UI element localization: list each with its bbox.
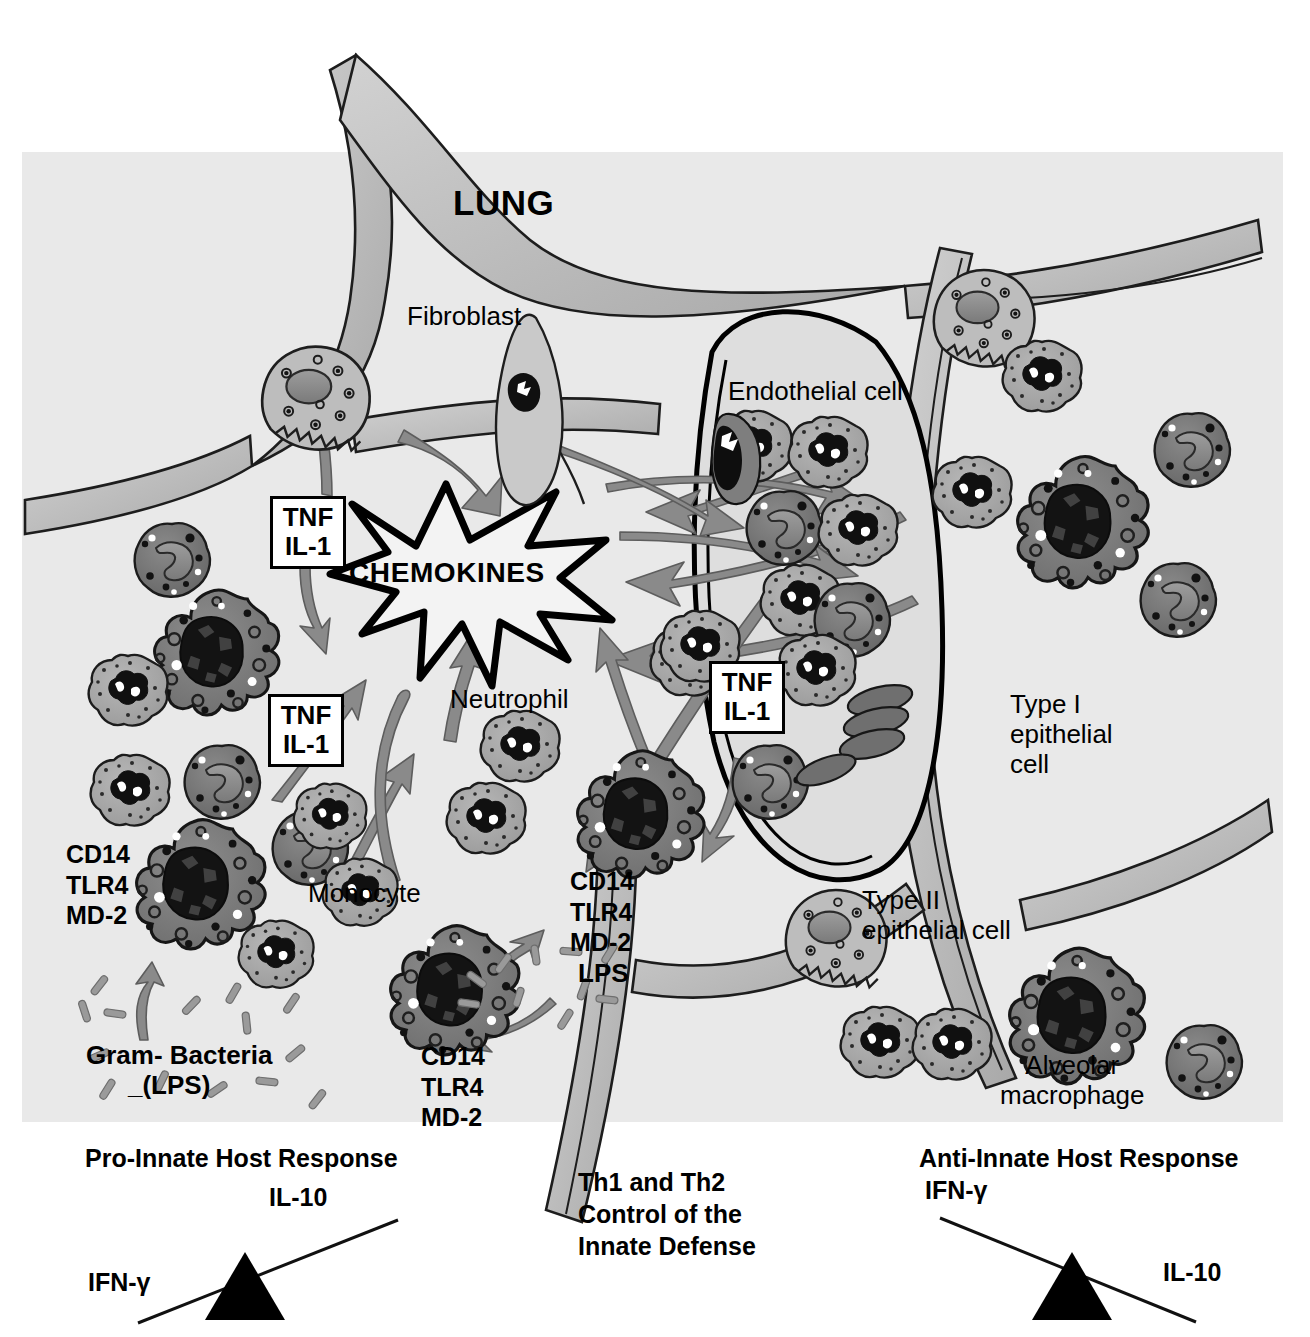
footer-right-low-label: IL-10 bbox=[1163, 1258, 1221, 1287]
footer-right-heading: Anti-Innate Host Response bbox=[919, 1144, 1238, 1173]
label-chemokines: CHEMOKINES bbox=[349, 557, 545, 589]
label-endothelial-cell: Endothelial cell bbox=[728, 376, 903, 406]
cytokine-box-fibroblast: TNF IL-1 bbox=[270, 496, 346, 569]
cytokine-il1: IL-1 bbox=[278, 730, 334, 759]
receptor-cluster-left: CD14 TLR4 MD-2 bbox=[66, 839, 130, 931]
label-gram-bacteria-lps: _(LPS) bbox=[128, 1070, 210, 1101]
receptor-cluster-center: CD14 TLR4 MD-2 bbox=[421, 1041, 485, 1133]
label-monocyte: Monocyte bbox=[308, 878, 421, 908]
label-alveolar-macrophage: Alveolar macrophage bbox=[1000, 1050, 1145, 1110]
cytokine-il1: IL-1 bbox=[719, 697, 775, 726]
label-type1-epithelial-cell: Type I epithelial cell bbox=[1010, 689, 1113, 779]
footer-left-heading: Pro-Innate Host Response bbox=[85, 1144, 398, 1173]
receptor-cluster-right: CD14 TLR4 MD-2 bbox=[570, 866, 634, 958]
balance-right bbox=[940, 1218, 1196, 1322]
cytokine-tnf: TNF bbox=[280, 503, 336, 532]
cytokine-box-monocyte: TNF IL-1 bbox=[268, 694, 344, 767]
footer-center-line1: Th1 and Th2 bbox=[578, 1168, 725, 1197]
footer-center-line2: Control of the bbox=[578, 1200, 742, 1229]
lung-panel bbox=[22, 152, 1283, 1122]
footer-center-line3: Innate Defense bbox=[578, 1232, 756, 1261]
cytokine-il1: IL-1 bbox=[280, 532, 336, 561]
figure-canvas: LUNG Fibroblast Endothelial cell Neutrop… bbox=[0, 0, 1310, 1337]
page-title: LUNG bbox=[453, 183, 554, 224]
label-lps: LPS bbox=[578, 958, 629, 988]
label-type2-epithelial-cell: Type II epithelial cell bbox=[862, 885, 1011, 945]
footer-right-high-label: IFN-γ bbox=[925, 1176, 988, 1205]
label-gram-bacteria: Gram- Bacteria bbox=[86, 1040, 272, 1071]
balance-left bbox=[138, 1220, 398, 1323]
footer-left-low-label: IFN-γ bbox=[88, 1268, 151, 1297]
footer-left-high-label: IL-10 bbox=[269, 1183, 327, 1212]
label-neutrophil: Neutrophil bbox=[450, 684, 569, 714]
cytokine-tnf: TNF bbox=[278, 701, 334, 730]
cytokine-tnf: TNF bbox=[719, 668, 775, 697]
label-fibroblast: Fibroblast bbox=[407, 301, 521, 331]
cytokine-box-endothelial: TNF IL-1 bbox=[709, 661, 785, 734]
